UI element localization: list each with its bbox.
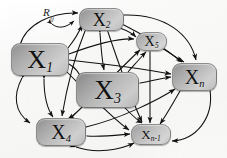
edge-x1-x4-inner <box>44 79 53 117</box>
edge-xn-xn1-arc <box>172 90 211 141</box>
graph-diagram: Rij X1 X2 X3 X4 X5 Xn-1 Xn <box>0 0 227 158</box>
node-x5[interactable]: X5 <box>136 32 167 51</box>
edge-x4-xn1-bow <box>76 143 134 151</box>
edge-x1-x4-outer <box>16 78 30 123</box>
node-x1[interactable]: X1 <box>11 43 69 76</box>
relation-subscript: ij <box>50 15 54 22</box>
node-xn-minus-1[interactable]: Xn-1 <box>131 124 171 145</box>
node-x3-label: X3 <box>94 77 121 104</box>
node-x5-label: X5 <box>145 35 159 49</box>
node-x3[interactable]: X3 <box>76 72 139 108</box>
relation-label: Rij <box>43 6 54 20</box>
edge-x2-x3 <box>100 33 104 70</box>
node-x4[interactable]: X4 <box>36 118 86 146</box>
edge-x3-xn <box>140 77 171 83</box>
edge-x4-xn1 <box>87 134 130 136</box>
node-x2[interactable]: X2 <box>79 8 124 31</box>
node-xn-label: Xn <box>185 67 205 87</box>
relation-pointer-arrow <box>52 21 74 27</box>
edge-x2-x5 <box>120 28 136 37</box>
node-x1-label: X1 <box>27 47 53 73</box>
node-x4-label: X4 <box>51 122 71 142</box>
edge-x5-xn <box>162 48 184 62</box>
node-x2-label: X2 <box>93 11 111 29</box>
node-xn[interactable]: Xn <box>172 63 217 91</box>
node-xn-minus-1-label: Xn-1 <box>141 128 160 141</box>
relation-symbol: R <box>43 6 50 18</box>
